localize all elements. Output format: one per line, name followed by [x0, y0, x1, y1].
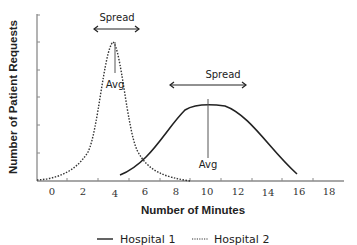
x-tick-label: 6: [142, 186, 148, 197]
avg-annotation-hospital-2: Avg: [106, 42, 125, 90]
spread-label: Spread: [99, 12, 134, 23]
avg-annotation-hospital-1: Avg: [199, 99, 218, 170]
chart: Number of Patient Requests 0 2 4 6 8 10: [0, 0, 357, 245]
x-tick-label: 0: [49, 186, 55, 197]
x-tick-label: 8: [173, 186, 179, 197]
spread-annotation-hospital-1: Spread: [170, 69, 246, 88]
y-axis-title: Number of Patient Requests: [7, 20, 19, 174]
legend-label-hospital-2: Hospital 2: [214, 233, 269, 245]
x-tick-label: 14: [262, 187, 275, 198]
avg-label: Avg: [106, 79, 125, 90]
y-axis: [37, 14, 40, 181]
avg-label: Avg: [199, 159, 218, 170]
x-tick-label: 12: [232, 186, 245, 197]
x-tick-labels: 0 2 4 6 8 10 12 14 16 18: [49, 186, 336, 199]
x-axis: [37, 178, 344, 181]
x-tick-label: 16: [293, 186, 306, 197]
x-tick-label: 18: [323, 186, 336, 197]
spread-label: Spread: [205, 69, 240, 80]
x-tick-label: 4: [112, 188, 118, 199]
x-axis-title: Number of Minutes: [141, 204, 245, 216]
legend: Hospital 1 Hospital 2: [97, 233, 269, 245]
x-tick-label: 2: [80, 186, 86, 197]
x-tick-label: 10: [201, 186, 214, 197]
spread-annotation-hospital-2: Spread: [94, 12, 139, 32]
hospital-2-curve: [37, 42, 190, 181]
legend-label-hospital-1: Hospital 1: [120, 233, 175, 245]
